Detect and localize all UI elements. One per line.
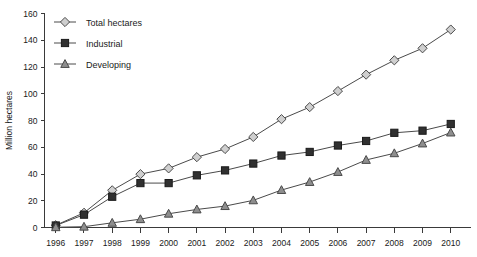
y-axis-title-text: Million hectares bbox=[4, 91, 14, 150]
x-tick-label: 2006 bbox=[328, 238, 347, 248]
data-point-square bbox=[306, 148, 313, 155]
y-tick-label: 80 bbox=[28, 116, 38, 126]
legend-label: Industrial bbox=[86, 39, 123, 49]
legend-label: Developing bbox=[86, 60, 131, 70]
data-point-square bbox=[391, 129, 398, 136]
legend-item-total-hectares[interactable]: Total hectares bbox=[54, 17, 143, 27]
series-developing bbox=[52, 128, 455, 231]
x-tick-label: 2002 bbox=[216, 238, 235, 248]
line-chart: 020406080100120140160 199619971998199920… bbox=[0, 0, 477, 257]
data-point-diamond bbox=[446, 25, 455, 34]
y-tick-label: 40 bbox=[28, 169, 38, 179]
data-point-diamond bbox=[362, 70, 371, 79]
y-tick-label: 20 bbox=[28, 196, 38, 206]
data-point-diamond bbox=[277, 115, 286, 124]
data-point-diamond bbox=[418, 44, 427, 53]
data-point-square bbox=[447, 120, 454, 127]
x-tick-label: 2000 bbox=[159, 238, 178, 248]
x-tick-label: 2003 bbox=[244, 238, 263, 248]
data-point-diamond bbox=[164, 164, 173, 173]
y-axis-title: Million hectares bbox=[4, 91, 14, 150]
x-tick-label: 2005 bbox=[300, 238, 319, 248]
x-tick-label: 1996 bbox=[46, 238, 65, 248]
data-point-diamond bbox=[390, 56, 399, 65]
data-point-square bbox=[278, 152, 285, 159]
y-tick-label: 120 bbox=[23, 62, 37, 72]
x-tick-label: 2010 bbox=[441, 238, 460, 248]
data-point-square bbox=[419, 127, 426, 134]
chart-container: 020406080100120140160 199619971998199920… bbox=[0, 0, 477, 257]
data-point-diamond bbox=[136, 170, 145, 179]
data-point-square bbox=[165, 179, 172, 186]
data-point-diamond bbox=[60, 17, 69, 26]
y-tick-label: 0 bbox=[33, 223, 38, 233]
data-point-diamond bbox=[220, 144, 229, 153]
data-point-square bbox=[109, 193, 116, 200]
x-tick-label: 1998 bbox=[103, 238, 122, 248]
y-tick-label: 60 bbox=[28, 142, 38, 152]
data-point-square bbox=[363, 137, 370, 144]
data-point-triangle bbox=[390, 149, 398, 157]
data-point-diamond bbox=[305, 103, 314, 112]
x-tick-label: 2009 bbox=[413, 238, 432, 248]
data-point-square bbox=[137, 179, 144, 186]
data-point-diamond bbox=[333, 86, 342, 95]
data-point-triangle bbox=[249, 196, 257, 204]
data-point-square bbox=[334, 142, 341, 149]
data-point-triangle bbox=[418, 139, 426, 147]
data-point-diamond bbox=[249, 132, 258, 141]
legend-label: Total hectares bbox=[86, 18, 143, 28]
data-point-square bbox=[193, 172, 200, 179]
y-tick-label: 160 bbox=[23, 9, 37, 19]
x-tick-label: 2001 bbox=[187, 238, 206, 248]
data-point-square bbox=[250, 160, 257, 167]
data-point-square bbox=[80, 211, 87, 218]
legend-item-industrial[interactable]: Industrial bbox=[54, 39, 123, 49]
series-layer bbox=[51, 25, 455, 231]
data-point-triangle bbox=[447, 128, 455, 136]
x-tick-label: 2008 bbox=[385, 238, 404, 248]
x-axis: 1996199719981999200020012002200320042005… bbox=[45, 228, 471, 248]
x-tick-label: 2004 bbox=[272, 238, 291, 248]
y-tick-label: 100 bbox=[23, 89, 37, 99]
legend-item-developing[interactable]: Developing bbox=[54, 60, 131, 70]
data-point-square bbox=[61, 39, 68, 46]
y-axis: 020406080100120140160 bbox=[23, 9, 44, 233]
y-tick-label: 140 bbox=[23, 35, 37, 45]
x-tick-label: 1999 bbox=[131, 238, 150, 248]
x-tick-label: 1997 bbox=[75, 238, 94, 248]
chart-legend: Total hectaresIndustrialDeveloping bbox=[54, 17, 143, 69]
data-point-diamond bbox=[192, 153, 201, 162]
data-point-square bbox=[221, 167, 228, 174]
series-line bbox=[56, 133, 451, 228]
x-tick-label: 2007 bbox=[357, 238, 376, 248]
data-point-triangle bbox=[305, 178, 313, 186]
data-point-triangle bbox=[334, 168, 342, 176]
